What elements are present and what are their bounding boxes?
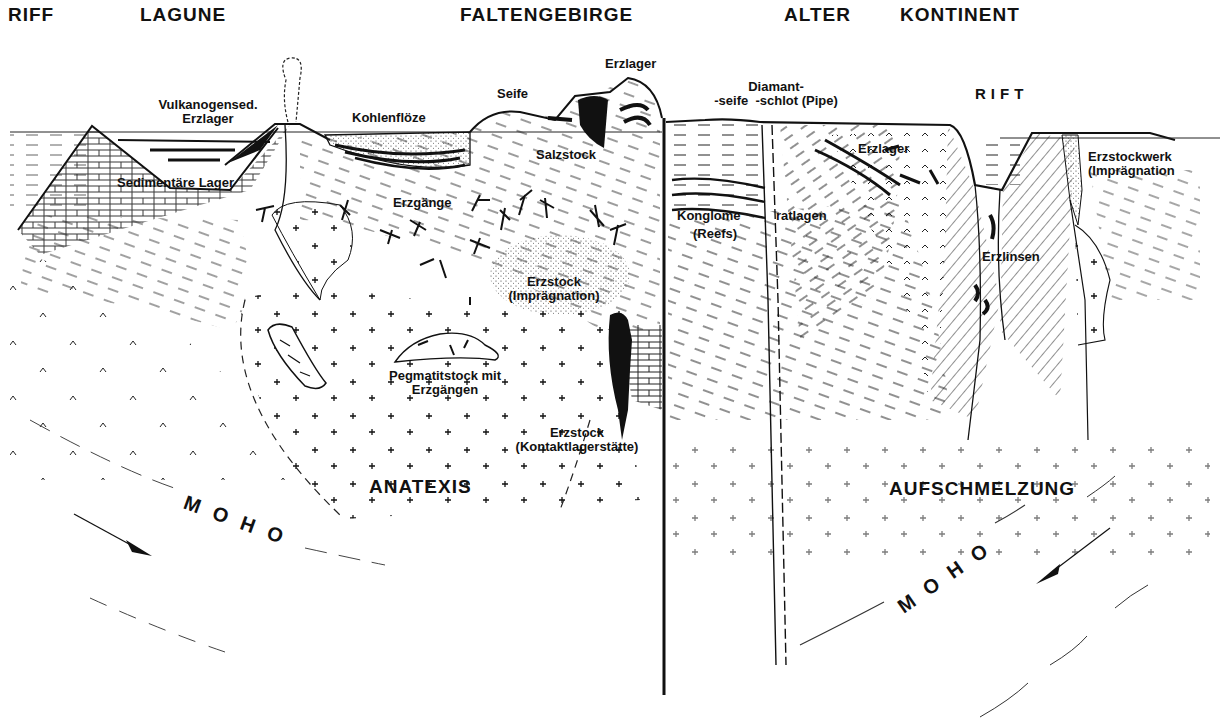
region-label-faltengebirge: FALTENGEBIRGE [460,5,633,25]
volcanic-plume [283,58,301,122]
label-aufschmelzung: AUFSCHMELZUNG [889,479,1075,499]
label-sedimentaere-lager: Sedimentäre Lager [117,176,234,190]
label-konglome: Konglome [677,209,741,223]
label-salzstock: Salzstock [536,148,596,162]
label-vulkanogensed-line1: Vulkanogensed. [138,98,278,112]
label-erzstock-kontakt: Erzstock (Kontaktlagerstätte) [488,426,666,453]
label-diamant-line2: -seife -schlot (Pipe) [686,94,866,108]
plate-arrow-left [126,540,152,556]
region-label-kontinent: KONTINENT [900,5,1020,25]
label-erzlager-top: Erzlager [605,57,656,71]
label-seife: Seife [497,87,528,101]
label-pegmatitstock-line2: Erzgängen [360,383,530,397]
label-reefs: (Reefs) [693,227,737,241]
region-label-rift: RIFT [975,86,1028,102]
label-erzlinsen: Erzlinsen [982,250,1040,264]
label-erzstockwerk: Erzstockwerk (Imprägnation [1088,150,1175,177]
label-erzstockwerk-line1: Erzstockwerk [1088,150,1175,164]
region-label-lagune: LAGUNE [140,5,226,25]
label-erzstock-impregnation: Erzstock (Imprägnation) [484,275,624,302]
label-anatexis: ANATEXIS [369,477,472,497]
label-kohlenfloeze: Kohlenflöze [352,111,426,125]
plate-arrow-right [1036,564,1060,584]
label-erzstockwerk-line2: (Imprägnation [1088,164,1175,178]
label-vulkanogensed-line2: Erzlager [138,112,278,126]
label-erzstock-impregnation-line2: (Imprägnation) [484,289,624,303]
region-label-riff: RIFF [8,5,54,25]
label-erzgaenge: Erzgänge [393,196,452,210]
label-pegmatitstock: Pegmatitstock mit Erzgängen [360,369,530,396]
moho-line-right [800,602,884,645]
region-label-alter: ALTER [784,5,851,25]
label-vulkanogensed: Vulkanogensed. Erzlager [138,98,278,125]
label-pegmatitstock-line1: Pegmatitstock mit [360,369,530,383]
label-erzstock-kontakt-line2: (Kontaktlagerstätte) [488,440,666,454]
label-diamant: Diamant- -seife -schlot (Pipe) [686,80,866,107]
label-diamant-line1: Diamant- [686,80,866,94]
lower-crust-right [670,440,1210,560]
label-ratlagen: ratlagen [776,209,827,223]
label-erzstock-impregnation-line1: Erzstock [484,275,624,289]
label-erzstock-kontakt-line1: Erzstock [488,426,666,440]
label-erzlager-right: Erzlager [858,142,909,156]
